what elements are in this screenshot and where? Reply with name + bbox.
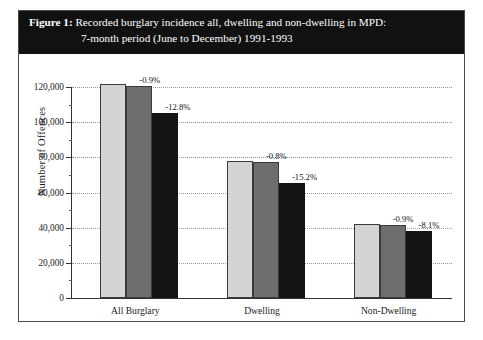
x-axis-category-label: All Burglary [111,305,160,316]
y-axis-tick-label: 100,000 [34,117,64,127]
bar-all-burglary-1991 [100,84,126,298]
bar-dwelling-1993 [279,183,305,298]
data-label: -0.8% [266,151,287,161]
y-axis-tick-label: 60,000 [38,188,64,198]
bar-non-dwelling-1991 [354,224,380,298]
y-axis-minor-tick [69,245,72,246]
y-axis-minor-tick [69,210,72,211]
bar-dwelling-1991 [227,161,253,298]
y-axis-tick-label: 40,000 [38,223,64,233]
bar-all-burglary-1992 [126,86,152,298]
data-label: -0.9% [393,214,414,224]
y-axis-minor-tick [69,140,72,141]
figure-frame: Figure 1: Recorded burglary incidence al… [18,10,465,322]
x-axis-category-label: Dwelling [244,305,280,316]
data-label: -12.8% [165,102,190,112]
bar-all-burglary-1993 [152,113,178,298]
figure-label: Figure 1: [29,16,73,28]
y-axis-tick [66,87,72,88]
figure-title-line-1: Figure 1: Recorded burglary incidence al… [29,15,454,31]
y-axis-tick [66,122,72,123]
data-label: -0.9% [139,75,160,85]
figure-title-banner: Figure 1: Recorded burglary incidence al… [19,11,464,54]
y-axis-tick [66,228,72,229]
y-axis-tick [66,298,72,299]
bar-non-dwelling-1993 [406,231,432,298]
y-axis-tick [66,193,72,194]
data-label: -15.2% [292,172,317,182]
bar-dwelling-1992 [253,162,279,298]
y-axis-minor-tick [69,105,72,106]
y-axis-tick-label: 0 [59,293,64,303]
data-label: -8.1% [419,220,440,230]
x-axis-category-label: Non-Dwelling [361,305,416,316]
figure-title-text-1: Recorded burglary incidence all, dwellin… [75,16,386,28]
figure-title-line-2: 7-month period (June to December) 1991-1… [29,31,454,47]
y-axis-minor-tick [69,175,72,176]
y-axis-tick [66,157,72,158]
chart-container: Number of Offences 020,00040,00060,00080… [19,54,464,322]
y-axis-tick-label: 80,000 [38,152,64,162]
bar-non-dwelling-1992 [380,225,406,298]
y-axis-tick [66,263,72,264]
y-axis-tick-label: 120,000 [34,82,64,92]
plot-area: 020,00040,00060,00080,000100,000120,000-… [71,87,452,299]
y-axis-minor-tick [69,280,72,281]
y-axis-tick-label: 20,000 [38,258,64,268]
